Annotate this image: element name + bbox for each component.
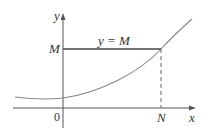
y-axis-arrow-icon	[61, 13, 66, 20]
function-curve	[15, 19, 192, 99]
line-label: y = M	[96, 33, 131, 48]
y-axis-label: y	[52, 8, 60, 23]
m-tick-label: M	[48, 41, 61, 56]
function-diagram: y x 0 M N y = M	[0, 0, 211, 130]
n-tick-label: N	[156, 110, 167, 125]
origin-label: 0	[54, 110, 60, 124]
x-axis-label: x	[188, 110, 195, 125]
